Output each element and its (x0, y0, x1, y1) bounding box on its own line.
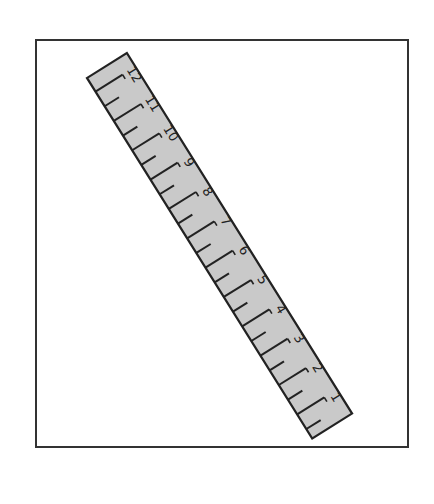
ruler-drawing: 121110987654321 (0, 0, 434, 504)
ruler-body: 121110987654321 (87, 52, 354, 439)
ruler: 121110987654321 12 11 10 9 8 7 6 5 4 3 2… (0, 0, 434, 504)
ruler-outline (87, 53, 352, 438)
